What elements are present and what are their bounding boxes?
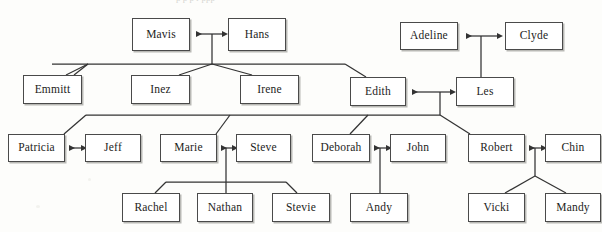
person-node-chin[interactable]: Chin xyxy=(545,134,601,162)
person-node-robert[interactable]: Robert xyxy=(468,134,525,162)
family-tree-diagram: p p p r ppp xyxy=(0,0,602,232)
sibling-legs-robert-chin-children xyxy=(505,176,566,193)
person-node-irene[interactable]: Irene xyxy=(240,75,299,104)
person-node-emmitt[interactable]: Emmitt xyxy=(23,75,82,104)
sibling-bus-generation-3 xyxy=(64,115,470,134)
person-node-les[interactable]: Les xyxy=(456,77,514,106)
person-node-edith[interactable]: Edith xyxy=(350,77,406,106)
person-node-stevie[interactable]: Stevie xyxy=(272,193,330,222)
person-node-marie[interactable]: Marie xyxy=(160,134,217,162)
paper-speck xyxy=(88,178,91,181)
person-node-clyde[interactable]: Clyde xyxy=(505,22,563,50)
person-node-jeff[interactable]: Jeff xyxy=(85,134,141,162)
person-node-mandy[interactable]: Mandy xyxy=(545,193,601,222)
person-node-deborah[interactable]: Deborah xyxy=(312,134,370,162)
person-node-nathan[interactable]: Nathan xyxy=(197,193,253,222)
person-node-vicki[interactable]: Vicki xyxy=(468,193,525,222)
person-node-steve[interactable]: Steve xyxy=(236,134,291,162)
sibling-bus-generation-2 xyxy=(52,64,366,77)
paper-speck xyxy=(36,205,40,208)
person-node-inez[interactable]: Inez xyxy=(131,75,190,104)
person-node-rachel[interactable]: Rachel xyxy=(122,193,180,222)
person-node-andy[interactable]: Andy xyxy=(350,193,408,222)
person-node-hans[interactable]: Hans xyxy=(228,18,286,51)
person-node-patricia[interactable]: Patricia xyxy=(8,134,65,162)
person-node-adeline[interactable]: Adeline xyxy=(400,22,458,50)
person-node-john[interactable]: John xyxy=(390,134,446,162)
person-node-mavis[interactable]: Mavis xyxy=(132,18,190,51)
